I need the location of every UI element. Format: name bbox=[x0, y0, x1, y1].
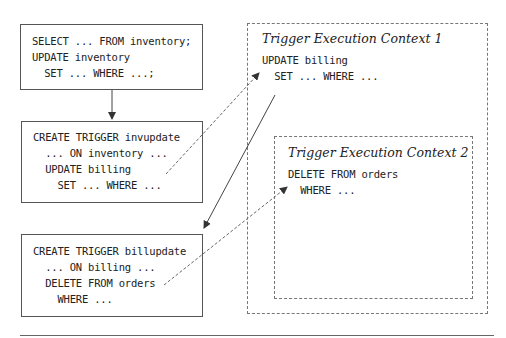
arrow-context1-to-trigger2 bbox=[204, 95, 275, 228]
arrows-layer bbox=[0, 0, 506, 338]
dashed-arrow-trigger2-to-context2 bbox=[164, 187, 287, 285]
bottom-rule bbox=[20, 335, 494, 336]
dashed-arrow-trigger1-to-context1 bbox=[166, 73, 259, 174]
